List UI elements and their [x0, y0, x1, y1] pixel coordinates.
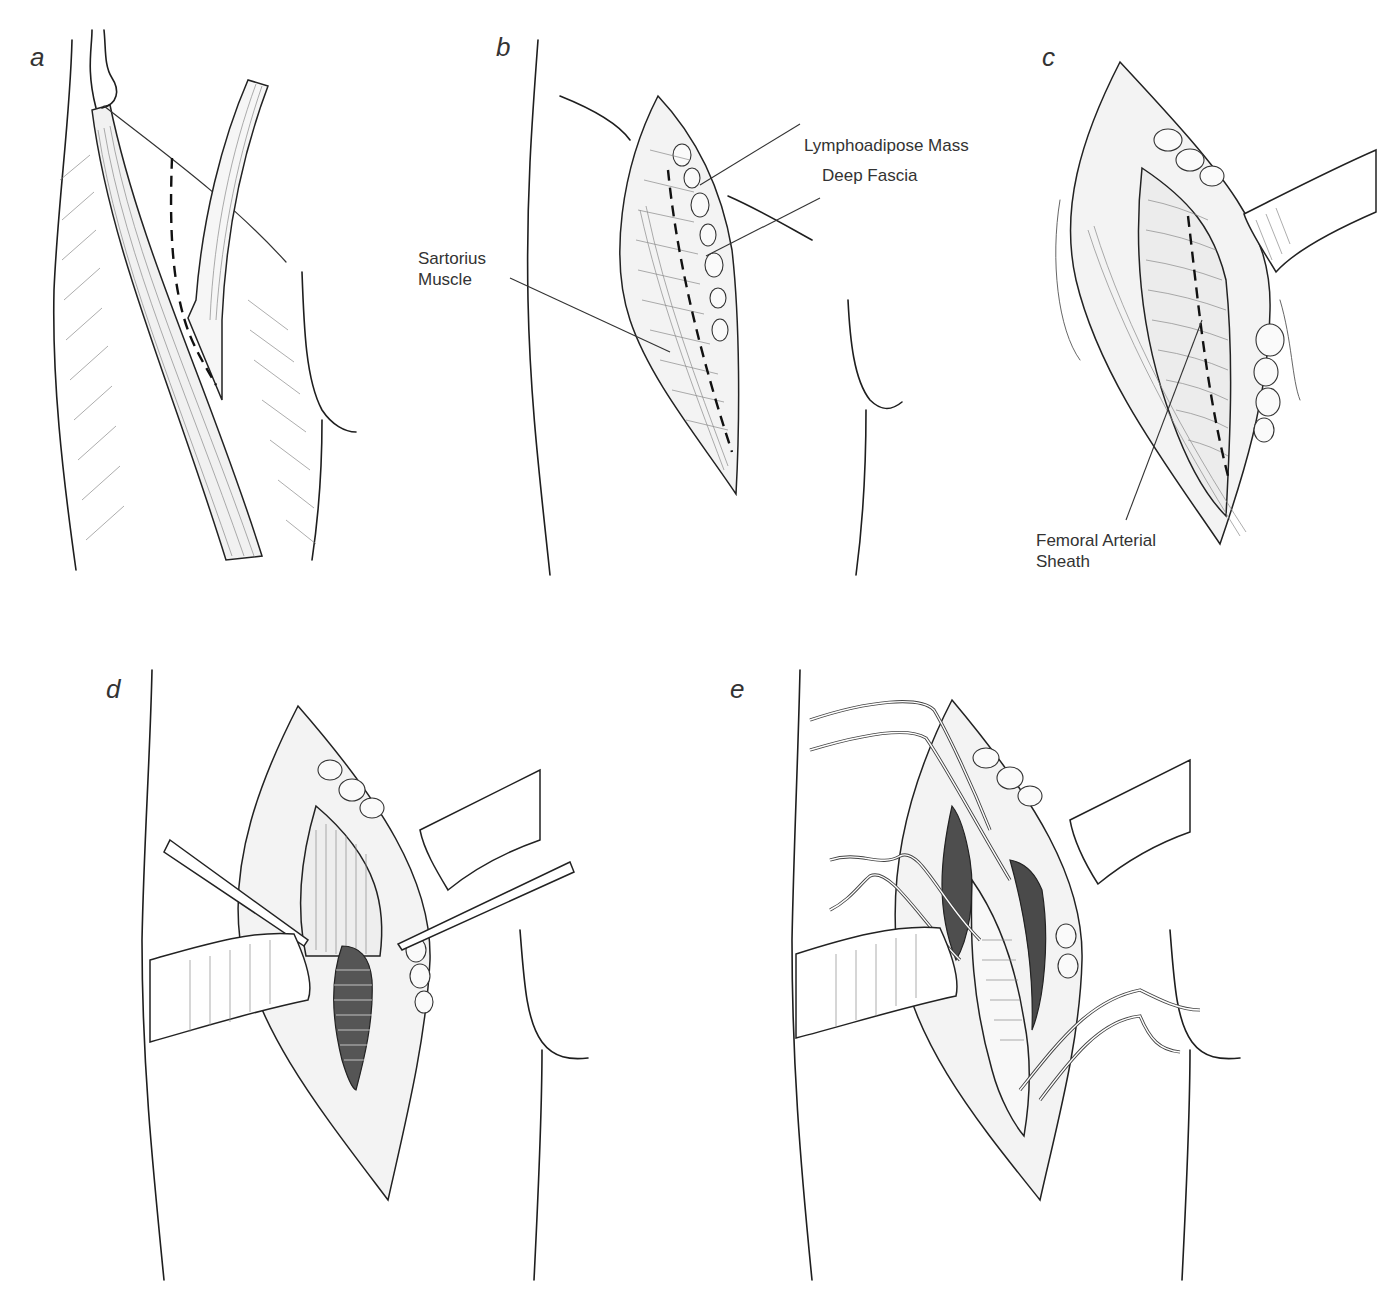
label-sartorius-muscle: Sartorius Muscle [418, 248, 486, 290]
panel-b: b Lymphoadipose Mass Deep Fascia [470, 0, 1030, 600]
label-femoral-arterial-sheath: Femoral Arterial Sheath [1036, 530, 1156, 572]
label-femoral-line-2: Sheath [1036, 551, 1156, 572]
label-lymphoadipose-mass: Lymphoadipose Mass [804, 135, 969, 156]
vessel-loops-illustration-e [720, 640, 1390, 1290]
retracted-wound-illustration-c [1030, 0, 1390, 600]
label-sartorius-line-2: Muscle [418, 269, 486, 290]
panel-a: a [0, 0, 420, 600]
panel-c: c [1030, 0, 1390, 600]
opened-sheath-illustration-d [80, 640, 660, 1290]
incision-illustration-b [470, 0, 1030, 600]
label-deep-fascia: Deep Fascia [822, 165, 917, 186]
label-femoral-line-1: Femoral Arterial [1036, 530, 1156, 551]
panel-e: e [720, 640, 1390, 1290]
label-sartorius-line-1: Sartorius [418, 248, 486, 269]
panel-d: d [80, 640, 660, 1290]
thigh-illustration-a [0, 0, 420, 600]
